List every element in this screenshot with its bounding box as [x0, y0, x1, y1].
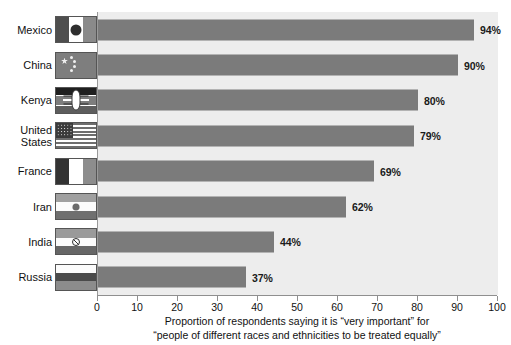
- bar-kenya: [98, 90, 418, 111]
- x-axis-tick-label: 40: [251, 301, 263, 313]
- flag-mexico-icon: [55, 16, 97, 43]
- flag-china-icon: [55, 52, 97, 79]
- bar-track: 80%: [98, 90, 498, 111]
- bar-row-kenya: 80%: [98, 83, 498, 118]
- category-row-russia: Russia: [0, 260, 97, 295]
- bar-value-label: 80%: [424, 94, 445, 106]
- category-label: United States: [20, 124, 55, 148]
- x-axis-tick-label: 60: [331, 301, 343, 313]
- bar-value-label: 94%: [480, 24, 501, 36]
- bar-value-label: 90%: [464, 59, 485, 71]
- flag-france-icon: [55, 158, 97, 185]
- x-axis-tick-label: 10: [131, 301, 143, 313]
- bar-row-united-states: 79%: [98, 118, 498, 153]
- bar-chart-figure: Mexico China Kenya: [0, 0, 511, 345]
- country-label-column: Mexico China Kenya: [0, 12, 97, 295]
- category-label: Mexico: [17, 24, 55, 36]
- category-row-china: China: [0, 47, 97, 82]
- category-label: Iran: [33, 201, 55, 213]
- flag-iran-icon: [55, 193, 97, 220]
- category-row-united-states: United States: [0, 118, 97, 153]
- x-axis-caption: Proportion of respondents saying it is “…: [97, 315, 497, 342]
- x-axis-tick-label: 100: [488, 301, 506, 313]
- category-label: China: [23, 59, 55, 71]
- flag-kenya-icon: [55, 87, 97, 114]
- category-label: India: [28, 236, 55, 248]
- bar-france: [98, 161, 374, 182]
- bar-row-russia: 37%: [98, 260, 498, 295]
- bar-track: 37%: [98, 267, 498, 288]
- bar-value-label: 69%: [380, 165, 401, 177]
- bar-track: 62%: [98, 196, 498, 217]
- bar-value-label: 79%: [420, 130, 441, 142]
- flag-india-icon: [55, 228, 97, 255]
- bar-track: 69%: [98, 161, 498, 182]
- plot-area: 94% 90% 80% 79% 69%: [97, 12, 498, 295]
- x-axis-tick-label: 70: [371, 301, 383, 313]
- x-axis-tick-label: 0: [94, 301, 100, 313]
- x-axis-tick-label: 20: [171, 301, 183, 313]
- caption-line-2: “people of different races and ethniciti…: [97, 329, 497, 343]
- bar-india: [98, 231, 274, 252]
- category-label: Russia: [18, 271, 55, 283]
- iran-emblem-icon: [73, 203, 80, 210]
- category-row-france: France: [0, 154, 97, 189]
- bar-row-mexico: 94%: [98, 12, 498, 47]
- category-row-mexico: Mexico: [0, 12, 97, 47]
- category-row-india: India: [0, 224, 97, 259]
- bar-value-label: 62%: [352, 201, 373, 213]
- bar-russia: [98, 267, 246, 288]
- bar-united-states: [98, 125, 414, 146]
- flag-united-states-icon: [55, 122, 97, 149]
- category-row-iran: Iran: [0, 189, 97, 224]
- bar-value-label: 37%: [252, 271, 273, 283]
- mexico-emblem-icon: [71, 24, 82, 35]
- x-axis-tick-label: 80: [411, 301, 423, 313]
- x-axis-tick-label: 90: [451, 301, 463, 313]
- bar-track: 94%: [98, 19, 498, 40]
- caption-line-1: Proportion of respondents saying it is “…: [97, 315, 497, 329]
- bar-mexico: [98, 19, 474, 40]
- kenya-shield-icon: [72, 90, 81, 111]
- flag-russia-icon: [55, 264, 97, 291]
- bar-track: 90%: [98, 55, 498, 76]
- x-axis-tick-label: 30: [211, 301, 223, 313]
- category-row-kenya: Kenya: [0, 83, 97, 118]
- bar-row-china: 90%: [98, 47, 498, 82]
- bar-track: 79%: [98, 125, 498, 146]
- category-label: France: [18, 165, 55, 177]
- bar-row-iran: 62%: [98, 189, 498, 224]
- x-axis-tick-label: 50: [291, 301, 303, 313]
- bar-china: [98, 55, 458, 76]
- category-label: Kenya: [21, 94, 55, 106]
- bar-row-india: 44%: [98, 224, 498, 259]
- india-chakra-icon: [72, 238, 80, 246]
- bar-track: 44%: [98, 231, 498, 252]
- bar-value-label: 44%: [280, 236, 301, 248]
- bar-iran: [98, 196, 346, 217]
- bar-row-france: 69%: [98, 154, 498, 189]
